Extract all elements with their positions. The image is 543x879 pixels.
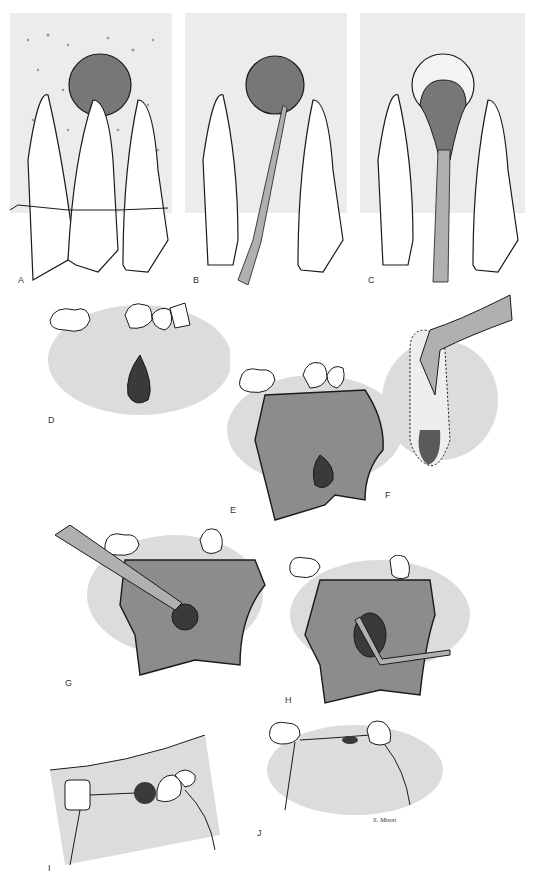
panel-i-illustration (45, 735, 225, 875)
panel-c: C (358, 10, 533, 285)
panel-b-label: B (193, 275, 199, 285)
panel-d-illustration (40, 300, 230, 430)
panel-c-illustration (358, 10, 533, 285)
panel-d: D (40, 300, 230, 430)
panel-h: H (280, 555, 470, 705)
panel-i: I (45, 735, 225, 875)
panel-j-illustration (255, 720, 445, 840)
artist-signature: S. Moon (373, 816, 396, 824)
panel-f-illustration (380, 290, 540, 500)
panel-b: B (183, 10, 353, 285)
panel-g-label: G (65, 678, 72, 688)
panel-j-label: J (257, 828, 262, 838)
panel-g: G (55, 525, 270, 685)
panel-e-illustration (225, 360, 405, 530)
panel-a-label: A (18, 275, 24, 285)
panel-g-illustration (55, 525, 270, 685)
panel-f: F (380, 290, 540, 500)
panel-h-label: H (285, 695, 292, 705)
panel-c-label: C (368, 275, 375, 285)
panel-i-label: I (48, 863, 51, 873)
panel-j: J S. Moon (255, 720, 445, 840)
panel-d-label: D (48, 415, 55, 425)
panel-e: E (225, 360, 405, 530)
panel-a: A (8, 10, 178, 285)
panel-f-label: F (385, 490, 391, 500)
flap (255, 390, 383, 520)
panel-e-label: E (230, 505, 236, 515)
panel-h-illustration (280, 555, 470, 705)
panel-b-illustration (183, 10, 353, 285)
panel-a-illustration (8, 10, 178, 285)
